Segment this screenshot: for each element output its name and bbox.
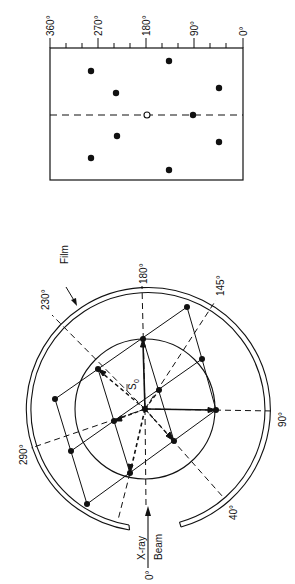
radial-dashed-lines xyxy=(31,286,275,520)
axis-label-90: 90° xyxy=(189,21,200,36)
axis-label-270: 270° xyxy=(93,15,104,36)
axis-label-360: 360° xyxy=(45,15,56,36)
xray-label: X-ray xyxy=(136,536,147,560)
label-40: 40° xyxy=(228,505,239,520)
label-180: 180° xyxy=(138,263,149,284)
data-points xyxy=(88,58,222,173)
axis-label-180: 180° xyxy=(141,15,152,36)
axis-label-0: 0° xyxy=(238,26,249,36)
beam-label: Beam xyxy=(153,534,164,560)
angle-plot: 360° 270° 180° 90° 0° xyxy=(45,15,249,180)
label-0: 0° xyxy=(144,570,155,580)
ewald-diagram: S 0 180° 145° 230° 290° 90° 40° 0° Film … xyxy=(18,245,288,580)
label-145: 145° xyxy=(215,275,226,296)
film-label: Film xyxy=(59,245,70,264)
lattice-lines xyxy=(55,307,216,504)
s0-label: S 0 xyxy=(127,379,140,391)
label-90: 90° xyxy=(277,412,288,427)
open-point xyxy=(144,112,150,118)
label-290: 290° xyxy=(18,444,29,465)
svg-text:S: S xyxy=(127,383,138,390)
axis-ticks xyxy=(50,38,243,48)
label-230: 230° xyxy=(40,289,51,310)
figure: 360° 270° 180° 90° 0° xyxy=(0,0,295,584)
film-pointer-arrow xyxy=(66,287,77,306)
svg-text:0: 0 xyxy=(133,379,140,383)
